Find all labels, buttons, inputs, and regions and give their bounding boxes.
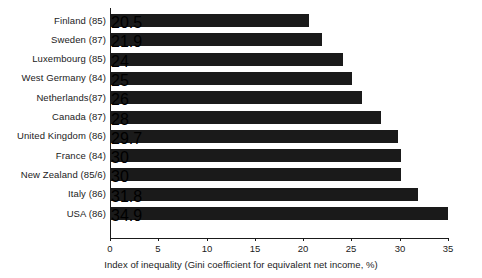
category-label: France (84) [56, 150, 106, 162]
bar: 26 [111, 91, 362, 104]
category-label: United Kingdom (86) [17, 130, 106, 142]
bar: 31.8 [111, 188, 418, 201]
category-label: Italy (86) [68, 188, 106, 200]
bar: 25 [111, 72, 352, 85]
x-tick-label: 35 [433, 243, 463, 255]
bar: 34.9 [111, 207, 448, 220]
category-label: Luxembourg (85) [32, 53, 106, 65]
x-tick-label: 0 [95, 243, 125, 255]
x-axis-line [110, 238, 448, 239]
x-tick-label: 30 [385, 243, 415, 255]
plot-area: 20.521.92425262829.7303031.834.9 Finland… [0, 0, 482, 278]
category-label: Sweden (87) [51, 34, 106, 46]
x-tick-mark [255, 238, 256, 241]
x-tick-mark [158, 238, 159, 241]
category-label: West Germany (84) [22, 72, 106, 84]
x-tick-label: 25 [336, 243, 366, 255]
x-axis-caption: Index of inequality (Gini coefficient fo… [0, 259, 482, 271]
x-tick-mark [303, 238, 304, 241]
bar: 28 [111, 111, 381, 124]
category-label: New Zealand (85/6) [21, 169, 106, 181]
bar: 30 [111, 149, 401, 162]
x-tick-label: 5 [143, 243, 173, 255]
category-label: Finland (85) [54, 15, 106, 27]
category-label: Netherlands(87) [36, 92, 106, 104]
bar: 21.9 [111, 33, 322, 46]
bar: 30 [111, 168, 401, 181]
bar-chart-figure: 20.521.92425262829.7303031.834.9 Finland… [0, 0, 482, 278]
x-tick-label: 15 [240, 243, 270, 255]
x-tick-mark [351, 238, 352, 241]
x-tick-label: 10 [192, 243, 222, 255]
x-tick-mark [110, 238, 111, 241]
bar: 20.5 [111, 14, 309, 27]
bar: 29.7 [111, 130, 398, 143]
bar: 24 [111, 53, 343, 66]
x-tick-mark [400, 238, 401, 241]
x-tick-mark [448, 238, 449, 241]
category-label: USA (86) [67, 208, 106, 220]
category-label: Canada (87) [52, 111, 106, 123]
x-tick-label: 20 [288, 243, 318, 255]
x-tick-mark [207, 238, 208, 241]
